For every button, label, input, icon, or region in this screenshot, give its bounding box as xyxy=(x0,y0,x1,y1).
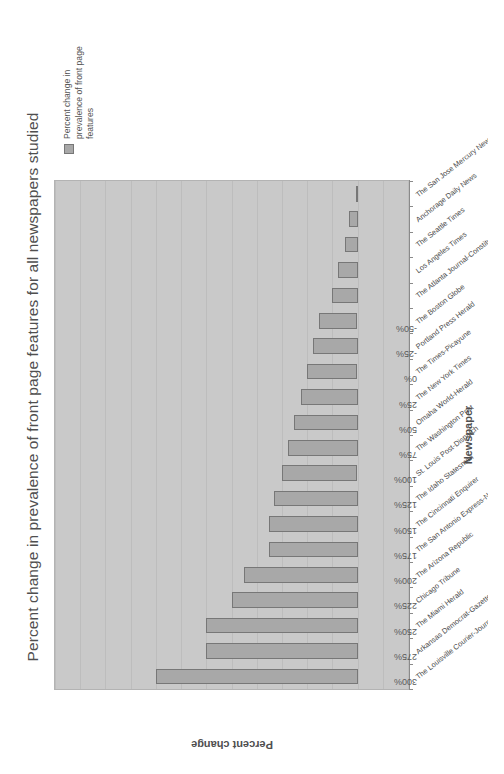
rotated-chart-wrapper: Percent change in prevalence of front pa… xyxy=(14,18,488,756)
value-tick-label: 50% xyxy=(399,425,417,435)
legend-swatch-icon xyxy=(64,144,74,154)
value-tick-label: 75% xyxy=(399,450,417,460)
value-tick-label: 125% xyxy=(394,501,417,511)
value-tick-label: 25% xyxy=(399,400,417,410)
legend: Percent change in prevalence of front pa… xyxy=(62,32,97,154)
y-axis-title: Percent change xyxy=(54,734,409,756)
x-axis-title: Newspaper xyxy=(462,180,474,690)
value-tick-label: 250% xyxy=(394,627,417,637)
value-tick-label: 175% xyxy=(394,551,417,561)
chart-figure: Percent change in prevalence of front pa… xyxy=(14,18,488,756)
value-tick-label: 150% xyxy=(394,526,417,536)
value-tick-label: 300% xyxy=(394,677,417,687)
value-tick-label: -25% xyxy=(396,349,417,359)
y-axis-title-text: Percent change xyxy=(191,739,273,751)
value-tick-label: 100% xyxy=(394,475,417,485)
legend-label: Percent change in prevalence of front pa… xyxy=(62,32,97,139)
value-tick-label: 275% xyxy=(394,652,417,662)
value-tick-label: -50% xyxy=(396,324,417,334)
page-canvas: Percent change in prevalence of front pa… xyxy=(0,0,504,774)
value-tick-label: 0% xyxy=(404,374,417,384)
value-axis-tick-labels: 300%275%250%225%200%175%150%125%100%75%5… xyxy=(415,180,455,690)
value-tick-label: 200% xyxy=(394,576,417,586)
value-tick-label: 225% xyxy=(394,601,417,611)
